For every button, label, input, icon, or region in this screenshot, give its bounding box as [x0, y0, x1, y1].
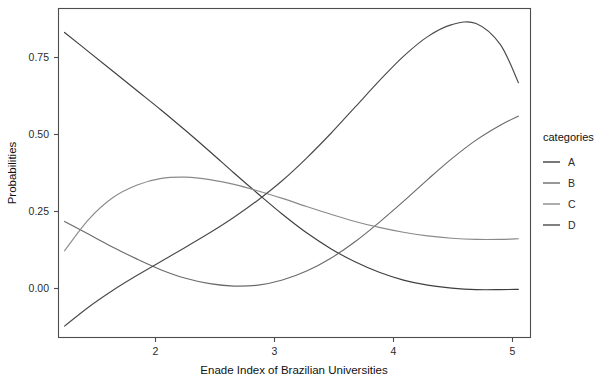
- y-tick-label-1: 0.25: [29, 205, 50, 217]
- y-axis-title: Probabilities: [6, 141, 18, 204]
- series-line-D: [65, 22, 519, 326]
- series-group: [65, 22, 519, 326]
- legend-label-A[interactable]: A: [568, 156, 575, 168]
- legend-label-D[interactable]: D: [568, 219, 576, 231]
- y-tick-label-3: 0.75: [29, 51, 50, 63]
- x-tick-label-1: 3: [272, 345, 278, 357]
- series-line-C: [65, 177, 519, 251]
- y-tick-label-0: 0.00: [29, 282, 50, 294]
- x-axis-title: Enade Index of Brazilian Universities: [200, 364, 388, 376]
- x-tick-label-0: 2: [153, 345, 159, 357]
- y-tick-label-2: 0.50: [29, 128, 50, 140]
- legend-label-C[interactable]: C: [568, 198, 576, 210]
- plot-panel-border: [59, 9, 531, 338]
- legend-label-B[interactable]: B: [568, 177, 575, 189]
- x-tick-label-3: 5: [510, 345, 516, 357]
- legend-title: categories: [543, 131, 594, 143]
- chart-canvas: 0.75 0.50 0.25 0.00 Probabilities 2 3 4 …: [0, 0, 604, 381]
- x-tick-label-2: 4: [391, 345, 397, 357]
- series-line-A: [65, 32, 519, 289]
- legend: categories ABCD: [543, 131, 594, 231]
- legend-items: ABCD: [543, 156, 576, 231]
- x-axis-ticks: [156, 338, 513, 343]
- chart-figure: 0.75 0.50 0.25 0.00 Probabilities 2 3 4 …: [0, 0, 604, 381]
- y-axis-ticks: [54, 58, 59, 289]
